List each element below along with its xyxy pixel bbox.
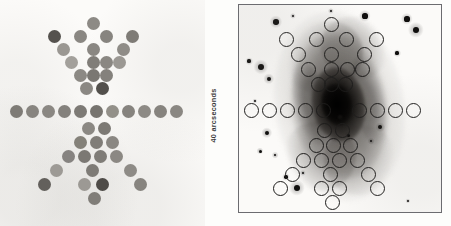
fiber-circle bbox=[86, 164, 99, 177]
fiber-aperture-map-panel bbox=[0, 0, 205, 226]
fiber-circle bbox=[117, 43, 130, 56]
fiber-circle bbox=[78, 178, 91, 191]
fiber-circle bbox=[87, 69, 100, 82]
fiber-circle bbox=[48, 30, 61, 43]
fiber-circle bbox=[78, 150, 91, 163]
foreground-star bbox=[330, 10, 333, 13]
aperture-circle bbox=[338, 77, 353, 92]
aperture-circle bbox=[317, 123, 332, 138]
scale-bar-label-text: 40 arcseconds bbox=[210, 89, 219, 143]
aperture-circle bbox=[298, 103, 313, 118]
aperture-circle bbox=[350, 153, 365, 168]
foreground-star bbox=[294, 185, 301, 192]
aperture-circle bbox=[335, 123, 350, 138]
fiber-circle bbox=[42, 105, 55, 118]
aperture-circle bbox=[301, 62, 316, 77]
foreground-star bbox=[370, 140, 373, 143]
foreground-star bbox=[407, 200, 409, 202]
aperture-circle bbox=[280, 103, 295, 118]
fiber-circle bbox=[74, 105, 87, 118]
foreground-star bbox=[395, 51, 398, 54]
fiber-circle bbox=[57, 43, 70, 56]
foreground-star bbox=[267, 77, 272, 82]
aperture-circle bbox=[339, 32, 354, 47]
fiber-circle bbox=[100, 69, 113, 82]
aperture-circle bbox=[343, 138, 358, 153]
foreground-star bbox=[404, 16, 409, 21]
fiber-circle bbox=[134, 178, 147, 191]
foreground-star bbox=[413, 27, 420, 34]
foreground-star bbox=[362, 13, 367, 18]
aperture-circle bbox=[324, 47, 339, 62]
foreground-star bbox=[274, 154, 277, 157]
galaxy-image bbox=[239, 5, 441, 212]
fiber-circle bbox=[113, 56, 126, 69]
aperture-circle bbox=[285, 167, 300, 182]
aperture-circle bbox=[357, 47, 372, 62]
aperture-circle bbox=[324, 77, 339, 92]
fiber-circle bbox=[58, 105, 71, 118]
aperture-circle bbox=[361, 167, 376, 182]
fiber-circle bbox=[90, 136, 103, 149]
aperture-circle bbox=[309, 138, 324, 153]
fiber-circle bbox=[170, 105, 183, 118]
aperture-circle bbox=[279, 32, 294, 47]
foreground-star bbox=[265, 131, 270, 136]
foreground-star bbox=[378, 125, 382, 129]
aperture-circle bbox=[340, 62, 355, 77]
fiber-circle bbox=[74, 69, 87, 82]
foreground-star bbox=[259, 150, 262, 153]
fiber-circle bbox=[80, 82, 93, 95]
fiber-circle bbox=[87, 56, 100, 69]
aperture-circle bbox=[370, 103, 385, 118]
aperture-circle bbox=[296, 153, 311, 168]
fiber-circle bbox=[138, 105, 151, 118]
fiber-circle bbox=[38, 178, 51, 191]
aperture-circle bbox=[309, 32, 324, 47]
fiber-circle bbox=[154, 105, 167, 118]
scale-bar-label: 40 arcseconds bbox=[207, 63, 221, 168]
aperture-circle bbox=[355, 62, 370, 77]
fiber-circle bbox=[96, 82, 109, 95]
aperture-circle bbox=[291, 47, 306, 62]
aperture-circle bbox=[388, 103, 403, 118]
aperture-circle bbox=[323, 167, 338, 182]
aperture-circle bbox=[325, 195, 340, 210]
fiber-circle bbox=[100, 30, 113, 43]
aperture-circle bbox=[314, 181, 329, 196]
fiber-circle bbox=[26, 105, 39, 118]
galaxy-image-panel bbox=[238, 4, 442, 213]
fiber-circle bbox=[87, 17, 100, 30]
fiber-circle bbox=[90, 105, 103, 118]
aperture-circle bbox=[332, 153, 347, 168]
fiber-circle bbox=[88, 192, 101, 205]
fiber-circle bbox=[74, 136, 87, 149]
fiber-circle bbox=[122, 105, 135, 118]
foreground-star bbox=[292, 15, 295, 18]
foreground-star bbox=[247, 59, 250, 62]
fiber-circle bbox=[65, 56, 78, 69]
foreground-star bbox=[302, 172, 305, 175]
fiber-circle bbox=[126, 30, 139, 43]
fiber-circle bbox=[94, 150, 107, 163]
foreground-star bbox=[258, 64, 264, 70]
fiber-circle bbox=[106, 136, 119, 149]
aperture-circle bbox=[369, 32, 384, 47]
fiber-circle bbox=[62, 150, 75, 163]
fiber-circle bbox=[106, 105, 119, 118]
aperture-circle bbox=[332, 181, 347, 196]
fiber-circle bbox=[74, 30, 87, 43]
aperture-circle bbox=[316, 103, 331, 118]
aperture-circle bbox=[406, 103, 421, 118]
aperture-circle bbox=[244, 103, 259, 118]
aperture-circle bbox=[326, 138, 341, 153]
fiber-circle bbox=[100, 56, 113, 69]
aperture-circle bbox=[324, 62, 339, 77]
fiber-circle bbox=[110, 150, 123, 163]
fiber-circle bbox=[98, 122, 111, 135]
astronomy-figure: 40 arcseconds bbox=[0, 0, 451, 226]
fiber-circle bbox=[50, 164, 63, 177]
fiber-circle bbox=[96, 178, 109, 191]
aperture-circle bbox=[324, 17, 339, 32]
foreground-star bbox=[273, 19, 279, 25]
